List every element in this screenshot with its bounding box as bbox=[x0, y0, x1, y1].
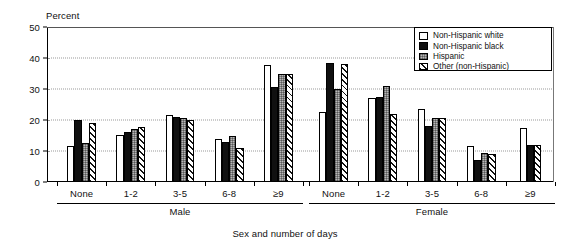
bar-male-None-1 bbox=[74, 120, 81, 182]
bar-male-None-0 bbox=[67, 146, 74, 182]
x-group-tick bbox=[555, 182, 556, 186]
x-group-label-female-68: 6-8 bbox=[474, 188, 488, 199]
x-group-tick bbox=[457, 182, 458, 186]
bar-female-12-1 bbox=[376, 97, 383, 182]
y-tick-label-10: 10 bbox=[14, 146, 40, 157]
bar-male-68-1 bbox=[222, 142, 229, 182]
bar-female-12-2 bbox=[383, 86, 390, 182]
bar-male-35-3 bbox=[187, 120, 194, 182]
bar-female-68-2 bbox=[481, 153, 488, 182]
bar-male-None-3 bbox=[89, 123, 96, 182]
legend-label: Other (non-Hispanic) bbox=[433, 62, 509, 71]
bar-female-9-3 bbox=[534, 145, 541, 182]
bar-female-68-0 bbox=[467, 146, 474, 182]
x-group-label-male-9: ≥9 bbox=[273, 188, 284, 199]
bar-male-35-1 bbox=[173, 117, 180, 182]
bar-female-9-1 bbox=[527, 145, 534, 182]
legend-item-non-hispanic-black: Non-Hispanic black bbox=[419, 41, 551, 51]
bar-female-35-3 bbox=[439, 118, 446, 182]
x-group-tick bbox=[309, 182, 310, 186]
legend-item-hispanic: Hispanic bbox=[419, 52, 551, 62]
x-group-label-male-35: 3-5 bbox=[173, 188, 187, 199]
bar-female-68-3 bbox=[488, 154, 495, 182]
bar-female-35-2 bbox=[432, 118, 439, 182]
bar-chart: Percent 01020304050 None1-23-56-8≥9MaleN… bbox=[0, 0, 571, 249]
panel-rule-male bbox=[57, 203, 303, 204]
x-group-tick bbox=[506, 182, 507, 186]
x-group-label-female-12: 1-2 bbox=[376, 188, 390, 199]
bar-male-9-3 bbox=[286, 74, 293, 183]
x-group-label-male-12: 1-2 bbox=[124, 188, 138, 199]
bar-female-None-1 bbox=[326, 63, 333, 182]
bar-female-68-1 bbox=[474, 160, 481, 182]
x-group-tick bbox=[303, 182, 304, 186]
chart-legend: Non-Hispanic white Non-Hispanic black Hi… bbox=[414, 27, 552, 71]
x-group-label-male-68: 6-8 bbox=[222, 188, 236, 199]
x-group-label-female-None: None bbox=[322, 188, 345, 199]
bar-male-35-2 bbox=[180, 118, 187, 182]
bar-female-12-0 bbox=[368, 98, 375, 182]
bar-male-35-0 bbox=[166, 115, 173, 182]
bar-male-12-0 bbox=[116, 135, 123, 182]
x-group-tick bbox=[106, 182, 107, 186]
bar-male-9-1 bbox=[271, 87, 278, 182]
bar-female-35-1 bbox=[425, 126, 432, 182]
x-group-tick bbox=[57, 182, 58, 186]
bar-male-12-1 bbox=[124, 132, 131, 182]
bar-male-68-0 bbox=[215, 139, 222, 182]
panel-rule-female bbox=[309, 203, 555, 204]
legend-item-other-non-hispanic: Other (non-Hispanic) bbox=[419, 62, 551, 72]
y-tick-label-20: 20 bbox=[14, 115, 40, 126]
bar-female-None-0 bbox=[319, 112, 326, 182]
legend-item-non-hispanic-white: Non-Hispanic white bbox=[419, 31, 551, 41]
x-group-label-male-None: None bbox=[70, 188, 93, 199]
panel-label-male: Male bbox=[170, 206, 191, 217]
x-group-tick bbox=[407, 182, 408, 186]
bar-female-None-2 bbox=[334, 89, 341, 182]
x-group-label-female-9: ≥9 bbox=[525, 188, 536, 199]
y-axis-title: Percent bbox=[46, 10, 79, 21]
bar-female-35-0 bbox=[418, 109, 425, 182]
bar-male-68-2 bbox=[229, 136, 236, 183]
bar-female-9-0 bbox=[520, 128, 527, 182]
x-group-tick bbox=[155, 182, 156, 186]
legend-swatch-gray-icon bbox=[419, 53, 428, 61]
x-axis-title: Sex and number of days bbox=[232, 228, 337, 239]
legend-label: Non-Hispanic black bbox=[433, 42, 504, 51]
legend-label: Non-Hispanic white bbox=[433, 31, 504, 40]
bar-female-12-3 bbox=[390, 114, 397, 182]
bar-male-12-2 bbox=[131, 129, 138, 182]
y-tick-label-0: 0 bbox=[14, 177, 40, 188]
x-group-label-female-35: 3-5 bbox=[425, 188, 439, 199]
y-tick-label-30: 30 bbox=[14, 84, 40, 95]
legend-swatch-hatch-icon bbox=[419, 63, 428, 71]
bar-male-9-2 bbox=[278, 74, 285, 183]
x-group-tick bbox=[205, 182, 206, 186]
bar-male-None-2 bbox=[82, 143, 89, 182]
legend-swatch-black-icon bbox=[419, 42, 428, 50]
bar-male-68-3 bbox=[236, 148, 243, 182]
legend-label: Hispanic bbox=[433, 52, 464, 61]
x-group-tick bbox=[254, 182, 255, 186]
x-group-tick bbox=[358, 182, 359, 186]
bar-female-None-3 bbox=[341, 64, 348, 182]
bar-male-9-0 bbox=[264, 65, 271, 182]
panel-label-female: Female bbox=[416, 206, 448, 217]
y-tick-label-50: 50 bbox=[14, 22, 40, 33]
legend-swatch-white-icon bbox=[419, 32, 428, 40]
bar-male-12-3 bbox=[138, 127, 145, 182]
y-tick-label-40: 40 bbox=[14, 53, 40, 64]
